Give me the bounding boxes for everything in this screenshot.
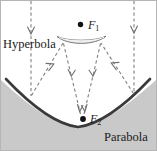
- parabola-label: Parabola: [104, 131, 148, 144]
- focus-1-subscript: 1: [95, 24, 99, 33]
- focus-1-dot: [78, 22, 83, 27]
- figure-canvas: [0, 0, 157, 151]
- optics-figure: Hyperbola Parabola F1 F2: [0, 0, 157, 151]
- focus-2-label: F2: [90, 113, 101, 127]
- focus-2-dot: [80, 116, 86, 122]
- focus-1-label: F1: [88, 19, 99, 33]
- focus-2-subscript: 2: [97, 118, 101, 127]
- hyperbola-label: Hyperbola: [3, 38, 56, 51]
